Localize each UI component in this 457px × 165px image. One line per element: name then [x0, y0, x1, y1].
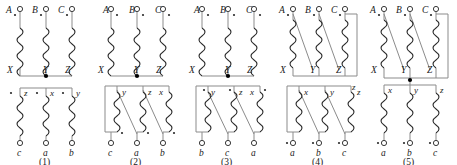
- label-start-z: z: [23, 88, 28, 98]
- terminal-a[interactable]: [381, 140, 386, 145]
- label-start-x: x: [387, 85, 392, 95]
- polarity-dot-z: [229, 89, 231, 91]
- label-start-x: x: [249, 87, 254, 97]
- label-end-Z: Z: [336, 65, 342, 75]
- label-terminal-C: C: [58, 5, 65, 15]
- terminal-A[interactable]: [381, 6, 386, 11]
- terminal-B[interactable]: [43, 6, 48, 11]
- secondary-neutral-node: [408, 78, 412, 82]
- polarity-dot-y: [403, 142, 405, 144]
- polarity-dot-x: [377, 142, 379, 144]
- polarity-dot-z: [147, 132, 149, 134]
- label-end-Y: Y: [134, 65, 141, 75]
- terminal-a[interactable]: [251, 140, 256, 145]
- label-end-X: X: [188, 65, 196, 75]
- diagram-3: A B C X Y Z y z x b c a (3): [184, 0, 275, 165]
- label-terminal-A: A: [278, 5, 285, 15]
- label-terminal-a: a: [290, 148, 295, 158]
- terminal-c[interactable]: [342, 140, 347, 145]
- polarity-dot-A: [116, 14, 118, 16]
- terminal-A[interactable]: [199, 6, 204, 11]
- terminal-a[interactable]: [290, 140, 295, 145]
- polarity-dot-B: [142, 14, 144, 16]
- label-end-Y: Y: [401, 65, 408, 75]
- terminal-b[interactable]: [316, 140, 321, 145]
- polarity-dot-z: [429, 142, 431, 144]
- label-start-x: x: [158, 87, 163, 97]
- label-terminal-b: b: [199, 148, 204, 158]
- polarity-dot-A: [378, 14, 380, 16]
- terminal-B[interactable]: [225, 6, 230, 11]
- label-start-z: z: [147, 87, 152, 97]
- polarity-dot-A: [287, 14, 289, 16]
- polarity-dot-x: [286, 142, 288, 144]
- polarity-dot-C: [430, 14, 432, 16]
- label-end-Z: Z: [427, 65, 433, 75]
- label-terminal-a: a: [381, 148, 386, 158]
- terminal-b[interactable]: [199, 140, 204, 145]
- polarity-dot-y: [203, 89, 205, 91]
- polarity-dot-A: [14, 14, 16, 16]
- diagram-5-canvas: A B C X Y Z x y z a b c (5): [366, 0, 457, 165]
- label-terminal-B: B: [129, 5, 135, 15]
- polarity-dot-x: [173, 132, 175, 134]
- label-terminal-B: B: [396, 5, 402, 15]
- label-start-y: y: [413, 85, 418, 95]
- terminal-c[interactable]: [433, 140, 438, 145]
- polarity-dot-C: [168, 14, 170, 16]
- polarity-dot-y: [62, 92, 64, 94]
- label-terminal-B: B: [32, 5, 38, 15]
- label-start-y: y: [75, 88, 80, 98]
- label-end-X: X: [370, 65, 378, 75]
- terminal-a[interactable]: [134, 140, 139, 145]
- polarity-dot-B: [313, 14, 315, 16]
- terminal-B[interactable]: [316, 6, 321, 11]
- polarity-dot-C: [339, 14, 341, 16]
- terminal-c[interactable]: [17, 140, 22, 145]
- polarity-dot-C: [259, 14, 261, 16]
- label-end-Y: Y: [225, 65, 232, 75]
- label-start-y: y: [121, 87, 126, 97]
- terminal-B[interactable]: [134, 6, 139, 11]
- polarity-dot-z: [10, 92, 12, 94]
- label-start-z: z: [238, 87, 243, 97]
- terminal-C[interactable]: [342, 6, 347, 11]
- caption-5: (5): [403, 157, 414, 165]
- polarity-dot-B: [233, 14, 235, 16]
- terminal-c[interactable]: [225, 140, 230, 145]
- terminal-c[interactable]: [108, 140, 113, 145]
- label-end-Z: Z: [156, 65, 162, 75]
- stray-label-canvas: z: [350, 80, 364, 94]
- label-end-Y: Y: [43, 65, 50, 75]
- transformer-connection-figure: A B C X Y Z z x y c a b (1): [0, 0, 457, 165]
- diagram-1-canvas: A B C X Y Z z x y c a b (1): [2, 0, 93, 165]
- label-terminal-c: c: [342, 148, 347, 158]
- terminal-A[interactable]: [17, 6, 22, 11]
- terminal-b[interactable]: [69, 140, 74, 145]
- polarity-dot-y: [312, 142, 314, 144]
- label-start-y: y: [210, 87, 215, 97]
- terminal-B[interactable]: [407, 6, 412, 11]
- terminal-A[interactable]: [108, 6, 113, 11]
- label-terminal-c: c: [108, 148, 113, 158]
- label-end-X: X: [97, 65, 105, 75]
- polarity-dot-y: [121, 132, 123, 134]
- label-end-X: X: [6, 65, 14, 75]
- caption-2: (2): [130, 157, 141, 165]
- terminal-a[interactable]: [43, 140, 48, 145]
- terminal-b[interactable]: [407, 140, 412, 145]
- terminal-b[interactable]: [160, 140, 165, 145]
- terminal-C[interactable]: [433, 6, 438, 11]
- terminal-A[interactable]: [290, 6, 295, 11]
- polarity-dot-x: [36, 92, 38, 94]
- label-terminal-B: B: [220, 5, 226, 15]
- diagram-5: A B C X Y Z x y z a b c (5): [366, 0, 457, 165]
- label-terminal-A: A: [102, 5, 109, 15]
- caption-4: (4): [312, 157, 323, 165]
- stray-label-z: z: [351, 82, 356, 92]
- diagram-1: A B C X Y Z z x y c a b (1): [2, 0, 93, 165]
- caption-1: (1): [39, 157, 50, 165]
- terminal-C[interactable]: [69, 6, 74, 11]
- label-terminal-b: b: [160, 148, 165, 158]
- label-start-x: x: [49, 88, 54, 98]
